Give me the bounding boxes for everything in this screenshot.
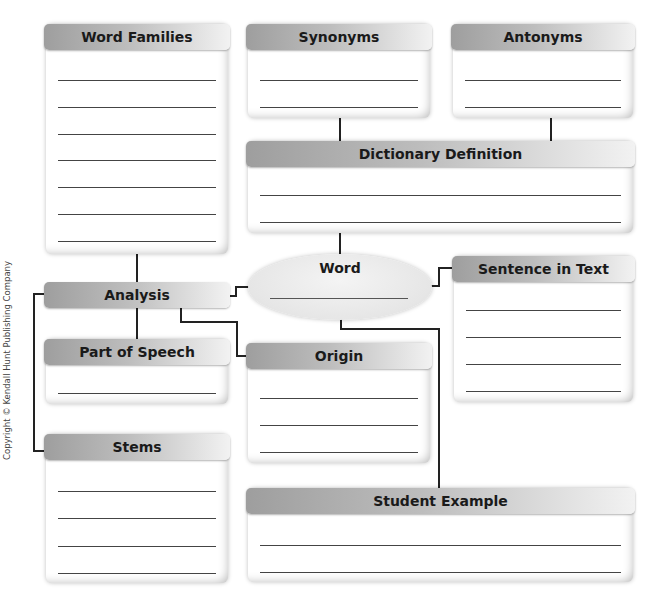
stems-line-1[interactable] xyxy=(58,491,216,492)
antonyms-line-2[interactable] xyxy=(465,107,621,108)
analysis-box: Analysis xyxy=(46,282,228,308)
connector-analysis-stems-c xyxy=(33,450,44,452)
student-example-line-2[interactable] xyxy=(260,572,621,573)
dictionary-definition-box: Dictionary Definition xyxy=(248,141,633,233)
connector-word-example-c xyxy=(438,328,440,488)
synonyms-header: Synonyms xyxy=(246,24,432,50)
word-title: Word xyxy=(248,260,432,276)
connector-word-example-b xyxy=(340,328,439,330)
word-families-header: Word Families xyxy=(44,24,230,50)
antonyms-header: Antonyms xyxy=(451,24,635,50)
word-families-line-6[interactable] xyxy=(58,214,216,215)
connector-definition-word xyxy=(339,233,341,255)
sentence-line-4[interactable] xyxy=(466,391,621,392)
synonyms-line-2[interactable] xyxy=(260,107,418,108)
connector-word-sentence-c xyxy=(438,267,452,269)
word-line[interactable] xyxy=(270,298,408,299)
connector-analysis-partofspeech xyxy=(136,308,138,339)
part-of-speech-header: Part of Speech xyxy=(44,339,230,365)
student-example-header: Student Example xyxy=(246,488,635,514)
sentence-line-2[interactable] xyxy=(466,337,621,338)
dictionary-definition-header: Dictionary Definition xyxy=(246,141,635,167)
connector-word-sentence-b xyxy=(438,267,440,287)
word-families-line-3[interactable] xyxy=(58,134,216,135)
origin-header: Origin xyxy=(246,343,432,369)
stems-line-3[interactable] xyxy=(58,546,216,547)
connector-analysis-origin-a xyxy=(180,308,182,322)
connector-analysis-stems-b xyxy=(33,293,35,452)
copyright-text: Copyright © Kendall Hunt Publishing Comp… xyxy=(2,240,12,460)
part-of-speech-line-1[interactable] xyxy=(58,393,216,394)
sentence-line-3[interactable] xyxy=(466,364,621,365)
sentence-in-text-header: Sentence in Text xyxy=(452,256,635,282)
connector-wordfamilies-analysis xyxy=(136,254,138,282)
connector-antonyms-definition xyxy=(550,118,552,141)
student-example-box: Student Example xyxy=(248,488,633,582)
origin-box: Origin xyxy=(248,343,430,463)
antonyms-line-1[interactable] xyxy=(465,80,621,81)
connector-analysis-origin-d xyxy=(236,355,246,357)
word-families-box: Word Families xyxy=(46,24,228,254)
dictionary-definition-line-2[interactable] xyxy=(260,222,621,223)
connector-synonyms-definition xyxy=(339,118,341,141)
stems-header: Stems xyxy=(44,434,230,460)
word-families-line-1[interactable] xyxy=(58,80,216,81)
student-example-line-1[interactable] xyxy=(260,545,621,546)
connector-analysis-origin-b xyxy=(180,321,237,323)
dictionary-definition-line-1[interactable] xyxy=(260,195,621,196)
antonyms-box: Antonyms xyxy=(453,24,633,118)
word-ellipse: Word xyxy=(248,254,432,320)
connector-analysis-origin-c xyxy=(236,321,238,357)
origin-line-3[interactable] xyxy=(260,452,418,453)
analysis-header: Analysis xyxy=(44,282,230,308)
connector-analysis-word-c xyxy=(235,286,249,288)
origin-line-2[interactable] xyxy=(260,425,418,426)
origin-line-1[interactable] xyxy=(260,398,418,399)
word-families-line-4[interactable] xyxy=(58,160,216,161)
stems-box: Stems xyxy=(46,434,228,583)
part-of-speech-box: Part of Speech xyxy=(46,339,228,404)
word-families-line-2[interactable] xyxy=(58,107,216,108)
stems-line-2[interactable] xyxy=(58,518,216,519)
stems-line-4[interactable] xyxy=(58,573,216,574)
sentence-line-1[interactable] xyxy=(466,310,621,311)
word-families-line-7[interactable] xyxy=(58,241,216,242)
synonyms-line-1[interactable] xyxy=(260,80,418,81)
sentence-in-text-box: Sentence in Text xyxy=(454,256,633,402)
synonyms-box: Synonyms xyxy=(248,24,430,118)
word-families-line-5[interactable] xyxy=(58,187,216,188)
